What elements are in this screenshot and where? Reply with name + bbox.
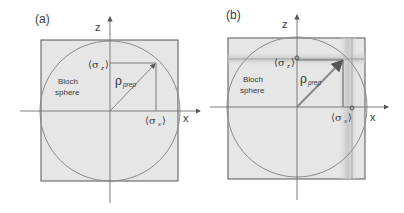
sigma-z-label-b: ⟨σ z ⟩: [274, 57, 295, 69]
svg-text:⟨σ: ⟨σ: [88, 59, 99, 70]
svg-text:⟨σ: ⟨σ: [331, 112, 342, 123]
svg-text:⟩: ⟩: [291, 57, 295, 68]
figure: (a) z x Bloch sphere ρ prep ⟨σ z ⟩ ⟨σ x …: [0, 0, 404, 213]
svg-text:⟩: ⟩: [105, 59, 109, 70]
bloch-sphere-label-a-1: Bloch: [58, 77, 78, 86]
svg-text:ρ: ρ: [300, 72, 307, 86]
sigma-z-label-a: ⟨σ z ⟩: [88, 59, 109, 71]
svg-text:ρ: ρ: [115, 74, 122, 88]
bloch-sphere-label-b-2: sphere: [240, 86, 265, 95]
sigma-x-label-b: ⟨σ x ⟩: [331, 112, 352, 124]
svg-text:z: z: [100, 65, 104, 71]
svg-text:⟩: ⟩: [162, 115, 166, 126]
svg-text:⟩: ⟩: [348, 112, 352, 123]
panel-b: (b) z x Bloch sphere ρ prep ⟨σ z ⟩ ⟨σ: [210, 8, 388, 200]
panel-label-b: (b): [226, 8, 241, 22]
x-axis-label-a: x: [183, 112, 189, 124]
svg-text:prep: prep: [122, 81, 136, 89]
z-axis-label-a: z: [95, 21, 101, 33]
panel-label-a: (a): [35, 12, 50, 26]
panel-a: (a) z x Bloch sphere ρ prep ⟨σ z ⟩ ⟨σ x …: [20, 12, 200, 203]
bloch-sphere-label-b-1: Bloch: [243, 75, 263, 84]
x-axis-label-b: x: [370, 111, 376, 123]
sigma-x-label-a: ⟨σ x ⟩: [145, 115, 166, 127]
svg-text:⟨σ: ⟨σ: [145, 115, 156, 126]
svg-text:prep: prep: [307, 79, 321, 87]
bloch-sphere-label-a-2: sphere: [55, 88, 80, 97]
svg-text:z: z: [286, 63, 290, 69]
z-axis-label-b: z: [282, 18, 288, 30]
svg-text:⟨σ: ⟨σ: [274, 57, 285, 68]
